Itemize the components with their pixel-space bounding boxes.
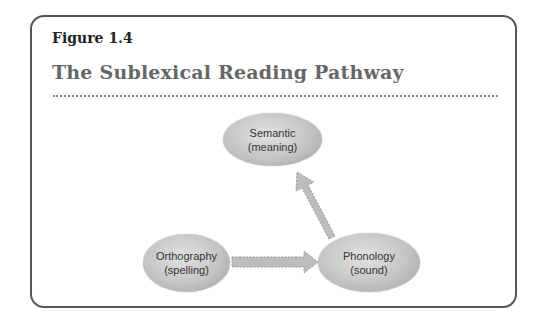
node-orthography-line2: (spelling) [164, 263, 209, 277]
node-semantic: Semantic (meaning) [223, 113, 322, 166]
arrow-phonology-to-semantic [296, 172, 335, 239]
node-phonology-line1: Phonology [343, 249, 395, 263]
node-semantic-line1: Semantic [250, 126, 296, 140]
node-semantic-line2: (meaning) [248, 140, 298, 154]
diagram-arrows [0, 0, 547, 333]
node-orthography-line1: Orthography [156, 249, 217, 263]
node-orthography: Orthography (spelling) [143, 234, 230, 292]
arrow-orthography-to-phonology [232, 251, 318, 273]
node-phonology: Phonology (sound) [318, 233, 420, 292]
node-phonology-line2: (sound) [350, 263, 387, 277]
